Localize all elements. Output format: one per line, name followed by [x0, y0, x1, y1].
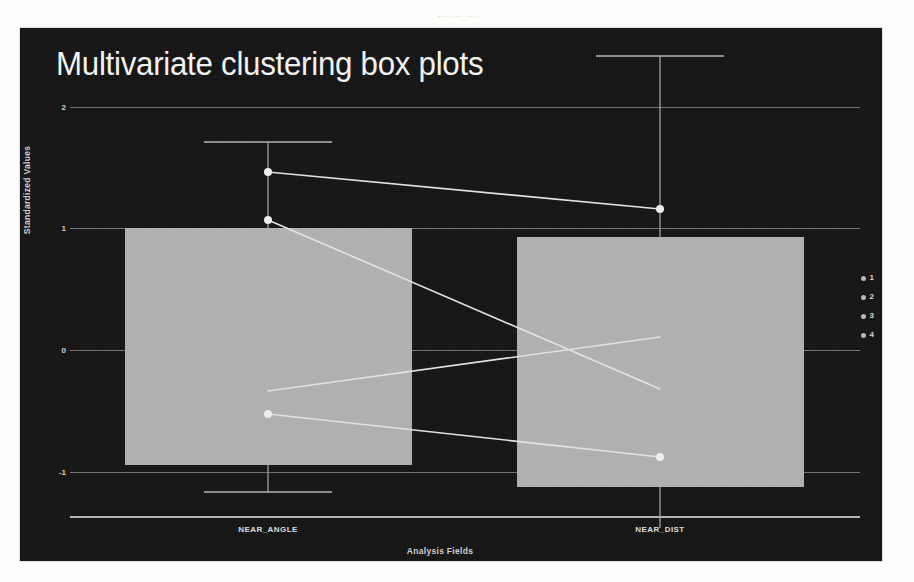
legend-item-1[interactable]: 1 — [861, 274, 874, 282]
scanned-page: … … … Multivariate clustering box plots … — [0, 0, 914, 582]
boxplot-near-angle — [125, 142, 412, 492]
marker-series1-near-dist — [656, 205, 664, 213]
legend-swatch-icon — [861, 276, 866, 281]
box-rect — [517, 237, 804, 487]
marker-series3-near-dist — [656, 453, 664, 461]
chart-legend: 1 2 3 4 — [861, 274, 874, 339]
page-ghost-header: … … … — [0, 0, 914, 26]
legend-label: 1 — [870, 274, 874, 282]
legend-label: 4 — [870, 331, 874, 339]
legend-swatch-icon — [861, 314, 866, 319]
cluster-line-1 — [268, 172, 660, 209]
legend-label: 3 — [870, 312, 874, 320]
legend-swatch-icon — [861, 295, 866, 300]
legend-item-3[interactable]: 3 — [861, 312, 874, 320]
marker-series2-near-angle — [264, 216, 272, 224]
legend-item-2[interactable]: 2 — [861, 293, 874, 301]
legend-item-4[interactable]: 4 — [861, 331, 874, 339]
boxplot-chart-figure: Multivariate clustering box plots Standa… — [20, 28, 882, 561]
marker-series1-near-angle — [264, 168, 272, 176]
plot-canvas — [20, 28, 882, 561]
legend-swatch-icon — [861, 333, 866, 338]
legend-label: 2 — [870, 293, 874, 301]
marker-series3-near-angle — [264, 410, 272, 418]
